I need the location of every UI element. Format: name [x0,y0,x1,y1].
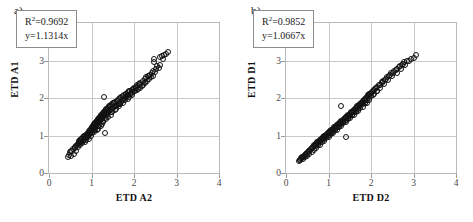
ytick-label: 1 [24,131,44,141]
panel-a-xaxis-title: ETD A2 [48,192,220,203]
ytick-label: 1 [261,131,281,141]
xtick-label: 1 [80,178,104,188]
data-point [413,52,419,58]
data-point [101,94,107,100]
data-point [126,94,132,100]
gridline-horizontal [286,61,456,62]
panel-b-annotation-box: R2=0.9852 y=1.0667x [253,10,314,48]
gridline-horizontal [49,98,219,99]
scatter-figure: a) 01234 01234 ETD A2 ETD A1 R2=0.9692 y… [0,0,473,222]
xtick-label: 0 [37,178,61,188]
ytick-label: 3 [24,56,44,66]
panel-a-r-squared: R2=0.9692 [25,15,68,29]
panel-a: a) 01234 01234 ETD A2 ETD A1 R2=0.9692 y… [0,0,236,222]
panel-b-equation: y=1.0667x [262,29,305,43]
panel-a-equation: y=1.1314x [25,29,68,43]
data-point [100,119,106,125]
xtick-label: 2 [359,178,383,188]
data-point [108,109,114,115]
gridline-horizontal [286,136,456,137]
ytick-label: 0 [24,168,44,178]
ytick-label: 2 [261,93,281,103]
panel-a-annotation-box: R2=0.9692 y=1.1314x [16,10,77,48]
xtick-label: 2 [122,178,146,188]
panel-b-xtick-labels: 01234 [285,178,457,192]
ytick-label: 3 [261,56,281,66]
gridline-horizontal [49,136,219,137]
xtick-label: 3 [402,178,426,188]
ytick-label: 2 [24,93,44,103]
panel-b: b) 01234 01234 ETD D2 ETD D1 R2=0.9852 y… [237,0,473,222]
data-point [338,103,344,109]
xtick-label: 0 [274,178,298,188]
data-point [374,88,380,94]
data-point [157,62,163,68]
data-point [343,134,349,140]
panel-a-xtick-labels: 01234 [48,178,220,192]
gridline-horizontal [49,61,219,62]
xtick-label: 4 [444,178,468,188]
xtick-label: 1 [317,178,341,188]
data-point [165,49,171,55]
data-point [364,100,370,106]
xtick-label: 3 [165,178,189,188]
panel-b-xaxis-title: ETD D2 [285,192,457,203]
data-point [342,118,348,124]
data-point [102,130,108,136]
data-point [142,79,148,85]
panel-b-r-squared: R2=0.9852 [262,15,305,29]
xtick-label: 4 [207,178,231,188]
ytick-label: 0 [261,168,281,178]
